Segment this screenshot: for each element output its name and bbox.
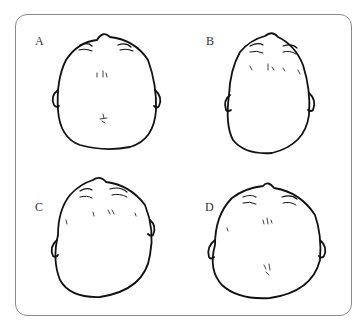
head-a — [53, 34, 161, 149]
head-c — [52, 178, 155, 297]
head-shapes-diagram — [0, 0, 364, 326]
head-d — [208, 183, 325, 298]
head-b — [225, 33, 314, 153]
